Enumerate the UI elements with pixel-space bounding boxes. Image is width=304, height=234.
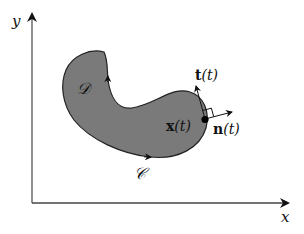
normal-label: n(t) [213,121,240,137]
point-x-t [201,116,208,123]
curve-c-label: 𝒞 [134,164,150,183]
point-label: x(t) [166,118,191,134]
diagram-canvas: y x 𝒟 𝒞 x(t) t(t) n(t) [0,0,304,234]
point-label-arg: (t) [174,118,191,134]
tangent-label: t(t) [195,67,218,83]
y-axis-label: y [11,12,21,30]
region-d-shape [63,51,207,157]
normal-vector [205,112,232,119]
normal-label-arg: (t) [223,121,240,137]
normal-label-main: n [213,121,223,137]
x-axis-label: x [281,208,290,226]
tangent-label-arg: (t) [201,67,218,83]
